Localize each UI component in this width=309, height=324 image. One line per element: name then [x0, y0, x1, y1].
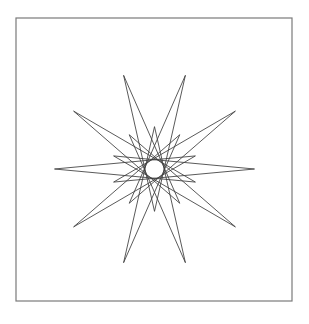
- figure-canvas: [0, 0, 309, 324]
- star-polygon-path: [55, 75, 255, 262]
- star-figure-svg: [0, 0, 309, 324]
